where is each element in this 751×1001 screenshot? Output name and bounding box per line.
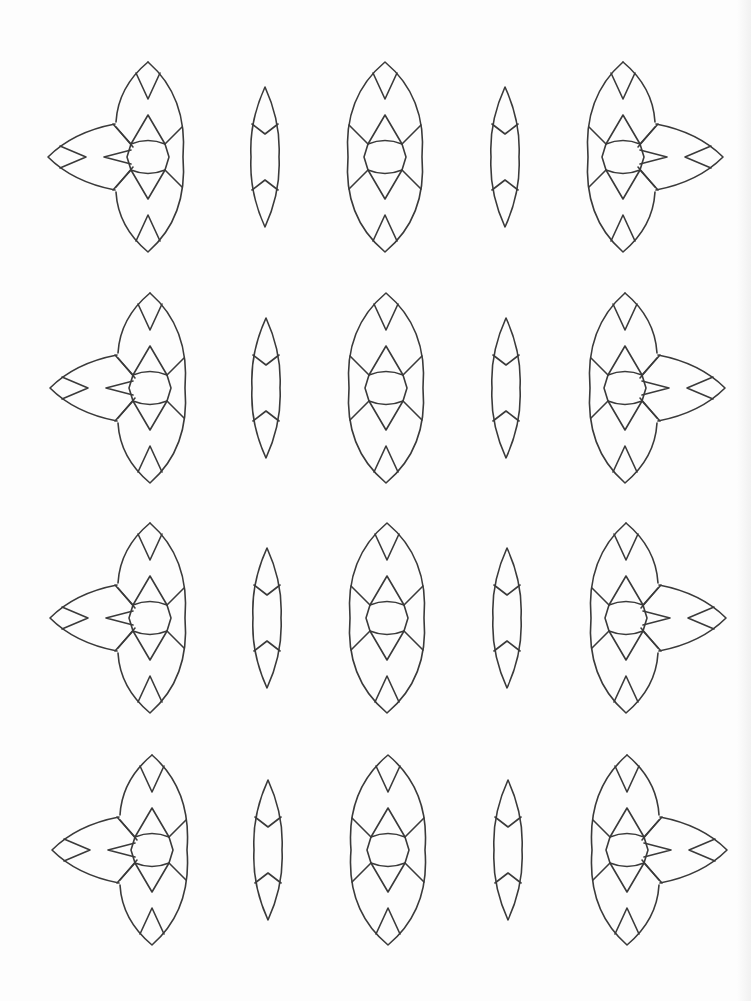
flower-right-ornament [591,755,727,945]
row-4 [52,755,727,945]
row-2 [50,293,725,483]
eye-ornament [347,62,422,252]
eye-ornament [348,293,423,483]
eye-ornament [350,755,425,945]
flower-right-ornament [590,523,726,713]
row-1 [48,62,723,252]
flower-right-ornament [589,293,725,483]
flower-left-ornament [50,523,186,713]
flower-left-ornament [52,755,188,945]
lens-ornament [254,780,282,920]
lens-ornament [494,780,522,920]
flower-left-ornament [50,293,186,483]
flower-left-ornament [48,62,184,252]
lens-ornament [251,87,279,227]
lens-ornament [492,318,520,458]
lens-ornament [491,87,519,227]
lens-ornament [253,548,281,688]
lens-ornament [252,318,280,458]
flower-right-ornament [587,62,723,252]
row-3 [50,523,726,713]
eye-ornament [349,523,424,713]
ornament-pattern [0,0,751,1001]
lens-ornament [493,548,521,688]
